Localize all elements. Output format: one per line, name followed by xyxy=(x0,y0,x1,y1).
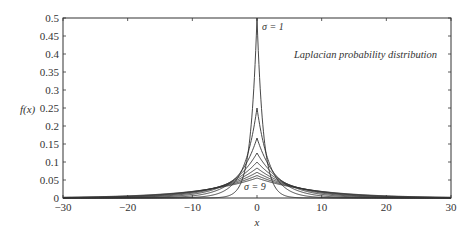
y-tick-label: 0.4 xyxy=(45,48,59,60)
y-tick-label: 0.05 xyxy=(40,174,60,186)
y-tick-label: 0.15 xyxy=(40,138,60,150)
x-tick-label: 30 xyxy=(446,201,458,213)
sigma-1-label: σ = 1 xyxy=(262,21,284,32)
y-tick-label: 0.3 xyxy=(45,84,59,96)
sigma-9-label: σ = 9 xyxy=(244,181,266,192)
distribution-curves xyxy=(63,18,451,198)
curve-sigma-5 xyxy=(63,162,451,198)
chart-annotation-title: Laplacian probability distribution xyxy=(293,49,437,60)
y-tick-label: 0.1 xyxy=(45,156,59,168)
x-tick-label: 20 xyxy=(381,201,393,213)
y-tick-label: 0.45 xyxy=(40,30,60,42)
y-tick-label: 0.25 xyxy=(40,102,60,114)
y-axis-label: f(x) xyxy=(20,103,36,116)
x-tick-label: −20 xyxy=(119,201,137,213)
x-tick-label: 10 xyxy=(316,201,328,213)
y-tick-label: 0.35 xyxy=(40,66,60,78)
y-axis-ticks: 00.050.10.150.20.250.30.350.40.450.5 xyxy=(40,12,451,204)
y-tick-label: 0.2 xyxy=(45,120,59,132)
laplacian-chart: 00.050.10.150.20.250.30.350.40.450.5 −30… xyxy=(0,0,471,235)
y-tick-label: 0.5 xyxy=(45,12,59,24)
x-axis-label: x xyxy=(254,216,260,228)
x-tick-label: −30 xyxy=(54,201,72,213)
x-tick-label: 0 xyxy=(254,201,260,213)
x-tick-label: −10 xyxy=(184,201,202,213)
